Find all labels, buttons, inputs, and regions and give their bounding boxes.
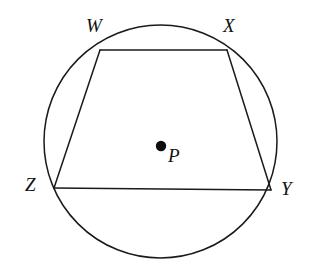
vertex-label-z: Z: [25, 175, 36, 194]
vertex-label-w: W: [86, 16, 102, 35]
geometry-figure: W X Z Y P: [0, 0, 317, 271]
segment-xy: [227, 50, 271, 190]
segment-zw: [54, 50, 100, 188]
segment-yz: [54, 188, 271, 190]
geometry-canvas: [0, 0, 317, 271]
center-label-p: P: [168, 146, 180, 165]
vertex-label-x: X: [223, 16, 235, 35]
point-p: [156, 141, 166, 151]
vertex-label-y: Y: [281, 179, 292, 198]
